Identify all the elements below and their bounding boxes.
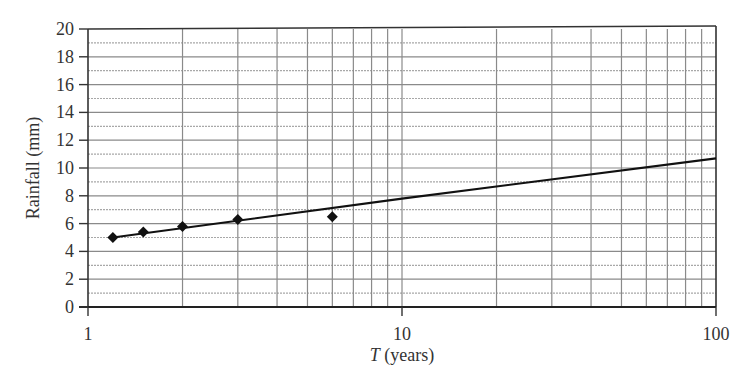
- diamond-marker: [138, 226, 149, 237]
- fitted-line-path: [113, 158, 716, 237]
- diamond-marker: [177, 221, 188, 232]
- x-axis-title: T (years): [370, 345, 434, 366]
- x-tick-label: 10: [393, 324, 411, 344]
- y-tick-label: 16: [56, 75, 74, 95]
- chart: 02468101214161820 110100 T (years) Rainf…: [0, 0, 743, 383]
- y-tick-label: 14: [56, 102, 74, 122]
- diamond-marker: [107, 232, 118, 243]
- y-tick-label: 6: [65, 214, 74, 234]
- y-tick-label: 20: [56, 19, 74, 39]
- x-axis-unit: (years): [380, 345, 434, 366]
- diamond-marker: [327, 211, 338, 222]
- y-axis-ticks: 02468101214161820: [56, 19, 88, 317]
- y-tick-label: 12: [56, 130, 74, 150]
- y-tick-label: 18: [56, 47, 74, 67]
- x-tick-label: 100: [703, 324, 730, 344]
- y-tick-label: 4: [65, 241, 74, 261]
- y-axis-title: Rainfall (mm): [23, 117, 44, 219]
- fitted-line: [113, 158, 716, 237]
- y-tick-label: 0: [65, 297, 74, 317]
- y-tick-label: 8: [65, 186, 74, 206]
- x-tick-label: 1: [84, 324, 93, 344]
- data-points: [107, 211, 337, 243]
- grid-lines: [88, 29, 716, 307]
- x-axis-ticks: 110100: [84, 307, 730, 344]
- top-border: [88, 26, 716, 29]
- y-tick-label: 10: [56, 158, 74, 178]
- y-tick-label: 2: [65, 269, 74, 289]
